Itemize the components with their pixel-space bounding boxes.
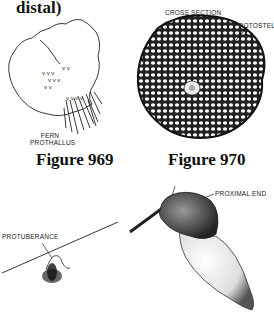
figure-969-caption: Figure 969 — [36, 150, 114, 170]
protuberance-drawing — [2, 222, 118, 283]
cross-section-drawing — [138, 15, 265, 138]
svg-text:v v v: v v v — [42, 70, 54, 76]
proximal-end-label: PROXIMAL END — [215, 190, 266, 197]
fern-label-line1: FERN — [30, 132, 70, 139]
fern-label-line2: PROTHALLUS — [30, 139, 70, 146]
figure-970-caption: Figure 970 — [168, 150, 246, 170]
svg-text:v v: v v — [44, 84, 52, 90]
cross-section-label: CROSS SECTION — [165, 9, 221, 16]
protostele-label: PROTOSTELE — [234, 22, 274, 29]
svg-text:v v v: v v v — [48, 77, 60, 83]
fern-label: FERN PROTHALLUS — [30, 132, 70, 146]
acorn-drawing — [130, 186, 254, 310]
svg-text:v v: v v — [62, 65, 70, 71]
fern-prothallus-drawing: v v v v v v v v v v v v v v — [9, 20, 102, 135]
protuberance-label: PROTUBERANCE — [2, 233, 59, 240]
